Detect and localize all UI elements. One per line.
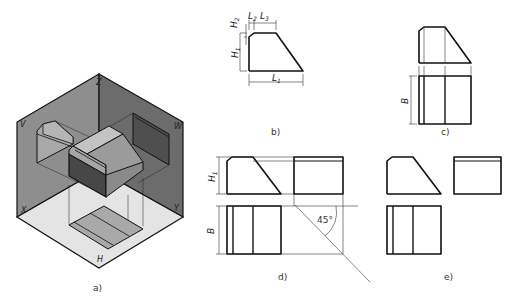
- panel-label-a: a): [93, 283, 102, 293]
- axis-label-h: H: [97, 255, 103, 264]
- axis-label-z: Z: [95, 78, 102, 87]
- dim-h1-d: H1: [207, 171, 218, 182]
- dim-l3: L3: [260, 11, 269, 22]
- dim-h2: H2: [229, 17, 240, 28]
- panel-label-b: b): [271, 127, 280, 137]
- dim-l1: L1: [272, 73, 281, 84]
- panel-d-three-views: H1 B 45° d): [206, 157, 370, 282]
- orthographic-projection-figure: Z V W X Y H a) L1 L2 L3 H1 H2 b): [0, 0, 513, 298]
- axis-label-w: W: [174, 122, 183, 131]
- panel-e-final-views: e): [387, 157, 501, 282]
- panel-c-front-top: B c): [400, 27, 471, 137]
- axis-label-x: X: [20, 206, 27, 215]
- dim-b-d: B: [206, 228, 216, 234]
- panel-a-isometric: Z V W X Y H a): [17, 74, 183, 293]
- panel-label-d: d): [278, 272, 287, 282]
- panel-label-e: e): [444, 272, 453, 282]
- dim-l2: L2: [248, 11, 257, 22]
- panel-b-front-view: L1 L2 L3 H1 H2 b): [229, 11, 303, 137]
- angle-45-label: 45°: [317, 215, 333, 225]
- panel-label-c: c): [441, 127, 449, 137]
- dim-b-c: B: [400, 98, 410, 104]
- axis-label-v: V: [20, 120, 26, 129]
- dim-h1: H1: [230, 47, 241, 58]
